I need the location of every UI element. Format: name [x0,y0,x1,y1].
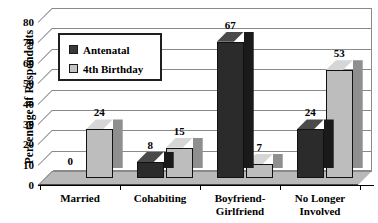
category-label-line: Married [40,192,120,205]
value-label: 0 [50,156,91,167]
value-label: 7 [239,142,280,153]
bar-side-face [353,60,363,168]
legend-label: 4th Birthday [83,63,143,75]
x-tick [120,185,121,190]
y-tick-label: 80 [14,17,34,28]
bar-front-face [217,42,244,179]
bar-chart: Percentage of Respondents 01020304050607… [0,0,378,223]
legend-label: Antenatal [83,44,129,56]
category-label-line: Involved [280,205,360,218]
y-tick-label: 10 [14,160,34,171]
bar-cohabiting-antenatal [137,162,164,178]
bar-side-face [193,138,203,169]
y-tick-label: 60 [14,58,34,69]
x-tick [200,185,201,190]
value-label: 15 [159,126,200,137]
value-label: 24 [290,107,331,118]
legend-item-4th-birthday: 4th Birthday [69,59,160,78]
category-label: Boyfriend-Girlfriend [200,192,280,217]
category-label: Cohabiting [120,192,200,205]
category-label-line: Cohabiting [120,192,200,205]
bar-married-4th-birthday [86,129,113,178]
y-tick-label: 30 [14,119,34,130]
bar-no-longer-involved-antenatal [297,129,324,178]
category-label-line: Girlfriend [200,205,280,218]
bar-front-face [297,129,324,178]
bar-boyfriend-girlfriend-antenatal [217,42,244,179]
x-tick [360,185,361,190]
category-label: No LongerInvolved [280,192,360,217]
value-label: 67 [210,20,251,31]
y-tick-label: 20 [14,139,34,150]
bar-front-face [137,162,164,178]
legend-item-antenatal: Antenatal [69,40,160,59]
category-label-line: No Longer [280,192,360,205]
legend-swatch-icon [69,64,78,73]
x-tick [280,185,281,190]
bar-front-face [86,129,113,178]
gridline [52,8,372,9]
y-tick-label: 70 [14,37,34,48]
gridline [52,90,372,91]
category-label-line: Boyfriend- [200,192,280,205]
y-tick-label: 50 [14,78,34,89]
bar-side-face [113,119,123,168]
y-tick-label: 0 [14,180,34,191]
bar-side-face [324,119,334,168]
value-label: 53 [319,48,360,59]
value-label: 8 [130,140,171,151]
value-label: 24 [79,107,120,118]
category-label: Married [40,192,120,205]
chart-legend: Antenatal4th Birthday [58,33,162,81]
x-axis-line [38,185,374,186]
bar-side-face [164,152,174,168]
bar-side-face [273,154,283,168]
x-tick [40,185,41,190]
y-tick-label: 40 [14,99,34,110]
y-axis-tick-labels: 01020304050607080 [12,0,34,223]
legend-swatch-icon [69,45,78,54]
